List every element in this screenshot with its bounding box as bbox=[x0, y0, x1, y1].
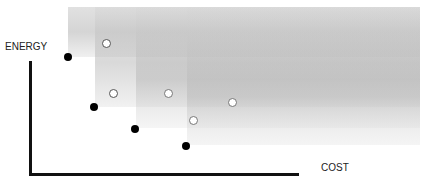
dominated-point bbox=[189, 116, 198, 125]
pareto-point bbox=[131, 125, 139, 133]
y-axis-label: ENERGY bbox=[5, 41, 47, 52]
pareto-point bbox=[90, 103, 98, 111]
dominated-point bbox=[228, 98, 237, 107]
pareto-point bbox=[64, 53, 72, 61]
x-axis-label: COST bbox=[321, 162, 349, 173]
dominated-point bbox=[164, 89, 173, 98]
x-axis-line bbox=[29, 173, 299, 176]
dominated-point bbox=[102, 39, 111, 48]
dominated-region-4 bbox=[187, 7, 420, 145]
y-axis-line bbox=[29, 61, 32, 176]
dominated-point bbox=[109, 89, 118, 98]
pareto-point bbox=[182, 142, 190, 150]
